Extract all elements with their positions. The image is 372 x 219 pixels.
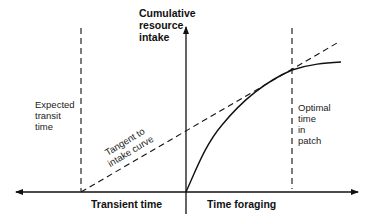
label-line: Optimal (298, 102, 331, 113)
label-line: time (298, 113, 331, 124)
label-line: time (35, 121, 75, 132)
y-axis-label-line: Cumulative (139, 7, 196, 19)
time-foraging-label: Time foraging (207, 198, 276, 210)
y-axis-label-line: resource (139, 19, 196, 31)
label-line: in (298, 124, 331, 135)
expected-transit-time-label: Expected transit time (35, 99, 75, 132)
label-line: transit (35, 110, 75, 121)
transient-time-label: Transient time (91, 198, 162, 210)
label-line: patch (298, 135, 331, 146)
label-line: Expected (35, 99, 75, 110)
optimal-time-label: Optimal time in patch (298, 102, 331, 146)
y-axis-label: Cumulative resource intake (139, 7, 196, 43)
y-axis-label-line: intake (139, 31, 196, 43)
